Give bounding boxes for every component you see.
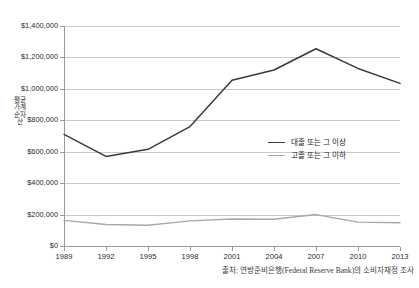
source-caption: 출처: 연방준비은행(Federal Reserve Bank)의 소비자재정 … xyxy=(0,266,414,276)
y-axis-tick-label: $1,400,000 xyxy=(2,22,58,30)
x-axis-tick-label: 1998 xyxy=(170,252,210,261)
x-axis-tick-label: 1995 xyxy=(128,252,168,261)
y-axis-tick-label: $200,000 xyxy=(2,211,58,219)
x-axis-tick xyxy=(148,247,149,251)
x-axis-tick-label: 1989 xyxy=(44,252,84,261)
y-axis-tick-label: $0 xyxy=(2,242,58,250)
x-axis-tick-label: 1992 xyxy=(86,252,126,261)
legend-item[interactable]: 고졸 또는 그 이하 xyxy=(268,149,386,161)
x-axis-tick xyxy=(106,247,107,251)
x-axis-tick xyxy=(358,247,359,251)
x-axis-tick-label: 2001 xyxy=(212,252,252,261)
y-axis-tick-label: $600,000 xyxy=(2,148,58,156)
x-axis-tick-label: 2010 xyxy=(338,252,378,261)
x-axis-tick-label: 2004 xyxy=(254,252,294,261)
x-axis-tick xyxy=(400,247,401,251)
x-axis-tick-label: 2007 xyxy=(296,252,336,261)
chart-legend: 대졸 또는 그 이상고졸 또는 그 이하 xyxy=(268,136,386,162)
legend-item-label: 고졸 또는 그 이하 xyxy=(291,151,346,160)
y-axis-title: 평균 가계순자산 xyxy=(13,96,27,126)
x-axis-tick xyxy=(274,247,275,251)
y-axis-tick-label: $1,000,000 xyxy=(2,85,58,93)
y-axis-tick-label: $1,200,000 xyxy=(2,53,58,61)
legend-item-label: 대졸 또는 그 이상 xyxy=(291,138,346,147)
x-axis-tick xyxy=(64,247,65,251)
legend-item[interactable]: 대졸 또는 그 이상 xyxy=(268,136,386,148)
y-axis-tick-label: $400,000 xyxy=(2,179,58,187)
x-axis-tick xyxy=(232,247,233,251)
chart-figure: $0$200,000$400,000$600,000$800,000$1,000… xyxy=(0,0,419,288)
x-axis-tick-label: 2013 xyxy=(380,252,419,261)
x-axis-tick xyxy=(316,247,317,251)
series-line-2 xyxy=(64,215,400,226)
y-axis-tick-label: $800,000 xyxy=(2,116,58,124)
legend-swatch-icon xyxy=(268,142,285,143)
x-axis-tick xyxy=(190,247,191,251)
y-axis-tick-labels: $0$200,000$400,000$600,000$800,000$1,000… xyxy=(0,0,58,288)
legend-swatch-icon xyxy=(268,155,285,156)
